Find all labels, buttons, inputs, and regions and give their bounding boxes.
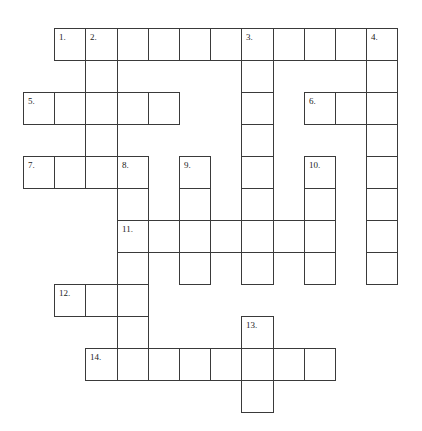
crossword-cell[interactable] bbox=[273, 28, 305, 61]
crossword-cell[interactable]: 4. bbox=[366, 28, 398, 61]
crossword-cell[interactable] bbox=[335, 92, 367, 125]
crossword-cell[interactable] bbox=[241, 220, 274, 253]
crossword-cell[interactable] bbox=[304, 28, 336, 61]
crossword-cell[interactable] bbox=[54, 92, 86, 125]
crossword-cell[interactable] bbox=[304, 252, 336, 285]
clue-number: 7. bbox=[28, 160, 35, 170]
crossword-cell[interactable] bbox=[179, 348, 211, 381]
clue-number: 4. bbox=[371, 32, 378, 42]
crossword-cell[interactable] bbox=[117, 92, 149, 125]
clue-number: 12. bbox=[59, 288, 70, 298]
crossword-cell[interactable] bbox=[85, 284, 118, 317]
crossword-cell[interactable]: 5. bbox=[23, 92, 55, 125]
crossword-cell[interactable]: 8. bbox=[117, 156, 149, 189]
crossword-cell[interactable] bbox=[241, 380, 274, 413]
clue-number: 2. bbox=[90, 32, 97, 42]
crossword-cell[interactable] bbox=[54, 156, 86, 189]
crossword-cell[interactable]: 12. bbox=[54, 284, 86, 317]
crossword-cell[interactable] bbox=[85, 124, 118, 157]
crossword-cell[interactable] bbox=[85, 92, 118, 125]
crossword-cell[interactable] bbox=[241, 348, 274, 381]
crossword-cell[interactable] bbox=[117, 188, 149, 221]
crossword-cell[interactable] bbox=[241, 252, 274, 285]
clue-number: 3. bbox=[246, 32, 253, 42]
crossword-cell[interactable] bbox=[117, 252, 149, 285]
crossword-cell[interactable] bbox=[179, 28, 211, 61]
crossword-cell[interactable] bbox=[366, 252, 398, 285]
clue-number: 10. bbox=[309, 160, 320, 170]
crossword-cell[interactable] bbox=[179, 252, 211, 285]
crossword-cell[interactable] bbox=[241, 60, 274, 93]
crossword-cell[interactable] bbox=[241, 124, 274, 157]
crossword-cell[interactable] bbox=[366, 60, 398, 93]
crossword-cell[interactable] bbox=[179, 220, 211, 253]
crossword-cell[interactable] bbox=[335, 28, 367, 61]
crossword-cell[interactable]: 1. bbox=[54, 28, 86, 61]
clue-number: 1. bbox=[59, 32, 66, 42]
crossword-cell[interactable] bbox=[304, 188, 336, 221]
clue-number: 9. bbox=[184, 160, 191, 170]
crossword-cell[interactable]: 3. bbox=[241, 28, 274, 61]
crossword-cell[interactable] bbox=[366, 156, 398, 189]
crossword-cell[interactable] bbox=[148, 92, 180, 125]
crossword-cell[interactable]: 7. bbox=[23, 156, 55, 189]
crossword-cell[interactable]: 14. bbox=[85, 348, 118, 381]
clue-number: 5. bbox=[28, 96, 35, 106]
crossword-cell[interactable] bbox=[366, 92, 398, 125]
crossword-cell[interactable]: 6. bbox=[304, 92, 336, 125]
crossword-cell[interactable] bbox=[366, 220, 398, 253]
crossword-cell[interactable] bbox=[210, 28, 242, 61]
crossword-cell[interactable] bbox=[148, 28, 180, 61]
crossword-cell[interactable] bbox=[241, 188, 274, 221]
crossword-cell[interactable]: 10. bbox=[304, 156, 336, 189]
crossword-cell[interactable] bbox=[241, 156, 274, 189]
clue-number: 8. bbox=[122, 160, 129, 170]
crossword-cell[interactable] bbox=[117, 316, 149, 349]
crossword-cell[interactable] bbox=[85, 60, 118, 93]
crossword-cell[interactable] bbox=[148, 348, 180, 381]
crossword-cell[interactable] bbox=[117, 284, 149, 317]
clue-number: 11. bbox=[122, 224, 133, 234]
clue-number: 14. bbox=[90, 352, 101, 362]
crossword-cell[interactable]: 11. bbox=[117, 220, 149, 253]
crossword-cell[interactable] bbox=[210, 220, 242, 253]
crossword-cell[interactable]: 9. bbox=[179, 156, 211, 189]
crossword-cell[interactable] bbox=[148, 220, 180, 253]
crossword-cell[interactable] bbox=[210, 348, 242, 381]
clue-number: 6. bbox=[309, 96, 316, 106]
crossword-cell[interactable] bbox=[366, 124, 398, 157]
crossword-cell[interactable]: 13. bbox=[241, 316, 274, 349]
crossword-cell[interactable] bbox=[241, 92, 274, 125]
crossword-cell[interactable] bbox=[304, 220, 336, 253]
crossword-cell[interactable] bbox=[273, 220, 305, 253]
crossword-cell[interactable] bbox=[85, 156, 118, 189]
crossword-cell[interactable] bbox=[179, 188, 211, 221]
crossword-cell[interactable]: 2. bbox=[85, 28, 118, 61]
clue-number: 13. bbox=[246, 320, 257, 330]
crossword-cell[interactable] bbox=[366, 188, 398, 221]
crossword-cell[interactable] bbox=[273, 348, 305, 381]
crossword-cell[interactable] bbox=[304, 348, 336, 381]
crossword-cell[interactable] bbox=[117, 28, 149, 61]
crossword-grid: 1.2.3.4.5.6.7.8.11.9.10.12.13.14. bbox=[0, 0, 422, 431]
crossword-cell[interactable] bbox=[117, 348, 149, 381]
